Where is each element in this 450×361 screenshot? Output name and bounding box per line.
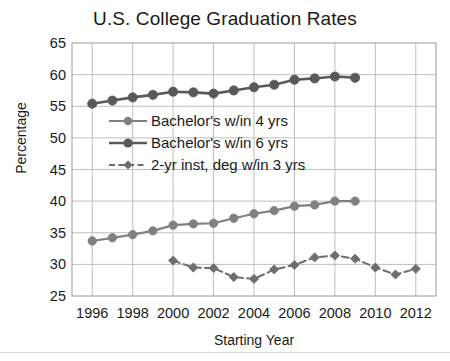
data-point-marker: [310, 253, 319, 262]
data-point-marker: [209, 219, 217, 227]
data-point-marker: [108, 234, 116, 242]
data-point-marker: [270, 265, 279, 274]
data-point-marker: [351, 73, 360, 82]
legend-diamond-marker-icon: [108, 157, 148, 173]
data-point-marker: [128, 93, 137, 102]
legend-circle-marker-icon: [108, 113, 148, 129]
data-point-marker: [310, 74, 319, 83]
data-point-marker: [351, 254, 360, 263]
data-point-marker: [209, 89, 218, 98]
data-point-marker: [249, 274, 258, 283]
data-point-marker: [149, 227, 157, 235]
data-point-marker: [310, 201, 318, 209]
data-point-marker: [169, 221, 177, 229]
legend-label: 2-yr inst, deg w/in 3 yrs: [148, 157, 305, 172]
data-point-marker: [169, 256, 178, 265]
data-point-marker: [270, 206, 278, 214]
data-point-marker: [189, 88, 198, 97]
data-point-marker: [209, 264, 218, 273]
data-point-marker: [249, 83, 258, 92]
data-point-marker: [411, 264, 420, 273]
data-point-marker: [229, 86, 238, 95]
data-point-marker: [169, 87, 178, 96]
legend-circle-marker-icon: [108, 135, 148, 151]
data-point-marker: [230, 214, 238, 222]
legend: Bachelor's w/in 4 yrsBachelor's w/in 6 y…: [108, 110, 305, 175]
data-point-marker: [290, 75, 299, 84]
data-point-marker: [189, 220, 197, 228]
data-point-marker: [351, 197, 359, 205]
data-point-marker: [88, 237, 96, 245]
legend-label: Bachelor's w/in 6 yrs: [148, 135, 288, 150]
data-point-marker: [330, 72, 339, 81]
data-point-marker: [229, 272, 238, 281]
data-point-marker: [330, 251, 339, 260]
data-point-marker: [108, 96, 117, 105]
legend-item[interactable]: Bachelor's w/in 6 yrs: [108, 132, 305, 153]
data-point-marker: [148, 90, 157, 99]
data-point-marker: [250, 210, 258, 218]
data-point-marker: [331, 197, 339, 205]
data-point-marker: [88, 99, 97, 108]
legend-item[interactable]: Bachelor's w/in 4 yrs: [108, 110, 305, 131]
data-point-marker: [270, 80, 279, 89]
data-point-marker: [128, 230, 136, 238]
plot-area: [0, 0, 450, 361]
data-point-marker: [391, 270, 400, 279]
chart-container: U.S. College Graduation Rates Percentage…: [0, 0, 450, 361]
bottom-divider: [0, 352, 450, 353]
data-point-marker: [290, 202, 298, 210]
legend-label: Bachelor's w/in 4 yrs: [148, 113, 288, 128]
data-point-marker: [290, 260, 299, 269]
legend-item[interactable]: 2-yr inst, deg w/in 3 yrs: [108, 154, 305, 175]
